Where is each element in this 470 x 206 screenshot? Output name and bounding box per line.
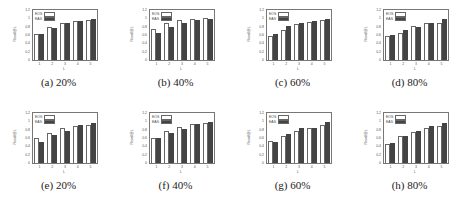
bar-eas: [429, 126, 434, 163]
x-tick-label: 2: [283, 165, 289, 169]
x-tick-label: 2: [49, 62, 55, 66]
y-tick-label: 1.2: [17, 111, 30, 115]
x-tick-label: 4: [75, 165, 81, 169]
y-tick-label: 0.8: [251, 25, 264, 29]
y-tick-label: 0: [251, 161, 264, 165]
x-tick-label: 1: [153, 62, 159, 66]
x-tick-label: 4: [75, 62, 81, 66]
legend-entry: EAS: [386, 17, 406, 22]
bar-eas: [169, 133, 174, 163]
x-tick-label: 5: [322, 62, 328, 66]
legend: EOSEAS: [152, 115, 172, 124]
x-tick-label: 2: [400, 62, 406, 66]
y-tick-label: 0.6: [251, 33, 264, 37]
x-tick-label: 5: [205, 165, 211, 169]
legend-label: EOS: [269, 12, 276, 16]
legend: EOSEAS: [386, 12, 406, 21]
y-tick-label: 0.2: [251, 153, 264, 157]
panel-caption: (h) 80%: [351, 179, 468, 191]
y-axis-label: Recall@L: [247, 129, 251, 144]
x-tick-label: 5: [88, 165, 94, 169]
y-tick-label: 0.2: [134, 50, 147, 54]
panel-caption: (b) 40%: [117, 76, 234, 88]
legend-entry: EAS: [152, 120, 172, 125]
y-tick-label: 0.8: [17, 25, 30, 29]
legend-label: EOS: [269, 115, 276, 119]
y-tick-label: 1: [134, 16, 147, 20]
y-tick-label: 0.6: [368, 136, 381, 140]
x-axis-label: L: [414, 67, 416, 71]
y-tick-label: 0: [134, 161, 147, 165]
y-tick-label: 1.2: [368, 8, 381, 12]
y-tick-label: 0.4: [134, 41, 147, 45]
bar-eas: [416, 131, 421, 164]
x-axis-label: L: [63, 170, 65, 174]
bar-eas: [39, 34, 44, 60]
legend-entry: EAS: [152, 17, 172, 22]
legend: EOSEAS: [35, 115, 55, 124]
x-tick-label: 3: [413, 165, 419, 169]
y-axis-label: Recall@L: [13, 26, 17, 41]
x-tick-label: 3: [413, 62, 419, 66]
y-tick-label: 0.4: [17, 41, 30, 45]
x-tick-label: 4: [192, 165, 198, 169]
y-axis-label: Recall@L: [364, 26, 368, 41]
bar-eas: [442, 123, 447, 163]
x-tick-label: 5: [439, 62, 445, 66]
legend-entry: EAS: [35, 17, 55, 22]
bar-eas: [390, 35, 395, 60]
bar-eas: [299, 128, 304, 163]
y-tick-label: 1.2: [251, 8, 264, 12]
bar-eas: [39, 142, 44, 163]
y-tick-label: 0.6: [251, 136, 264, 140]
x-tick-label: 3: [296, 62, 302, 66]
x-tick-label: 5: [322, 165, 328, 169]
y-tick-label: 0.4: [251, 41, 264, 45]
y-tick-label: 1: [251, 16, 264, 20]
panel-caption: (d) 80%: [351, 76, 468, 88]
legend-label: EOS: [386, 12, 393, 16]
bar-eas: [169, 27, 174, 60]
x-tick-label: 3: [62, 62, 68, 66]
panel-caption: (f) 40%: [117, 179, 234, 191]
bar-eas: [312, 128, 317, 163]
legend-swatch-icon: [395, 120, 406, 125]
legend-label: EOS: [35, 12, 42, 16]
y-tick-label: 0.4: [251, 144, 264, 148]
y-tick-label: 0: [368, 58, 381, 62]
y-tick-label: 0.8: [134, 25, 147, 29]
y-tick-label: 0.8: [368, 25, 381, 29]
bar-eas: [195, 124, 200, 163]
x-tick-label: 2: [400, 165, 406, 169]
y-axis-label: Recall@L: [247, 26, 251, 41]
legend-swatch-icon: [161, 17, 172, 22]
y-tick-label: 0.8: [251, 128, 264, 132]
bar-eas: [286, 134, 291, 163]
y-axis-label: Recall@L: [13, 129, 17, 144]
chart-panel: 00.20.40.60.811.2Recall@L12345LEOSEAS(a)…: [0, 0, 117, 103]
bar-eas: [65, 131, 70, 164]
x-tick-label: 1: [387, 165, 393, 169]
legend: EOSEAS: [152, 12, 172, 21]
bar-eas: [403, 136, 408, 164]
bar-eas: [416, 27, 421, 60]
bar-eas: [182, 129, 187, 163]
legend-swatch-icon: [44, 120, 55, 125]
y-tick-label: 0.2: [17, 50, 30, 54]
x-tick-label: 5: [205, 62, 211, 66]
y-tick-label: 0.2: [17, 153, 30, 157]
x-axis-label: L: [63, 67, 65, 71]
y-axis-label: Recall@L: [130, 129, 134, 144]
panel-caption: (c) 60%: [234, 76, 351, 88]
legend-entry: EAS: [386, 120, 406, 125]
legend: EOSEAS: [35, 12, 55, 21]
legend-label: EOS: [386, 115, 393, 119]
legend-entry: EAS: [269, 17, 289, 22]
legend-entry: EAS: [269, 120, 289, 125]
x-tick-label: 3: [62, 165, 68, 169]
chart-panel: 00.20.40.60.811.2Recall@L12345LEOSEAS(g)…: [234, 103, 351, 206]
bar-eas: [429, 23, 434, 61]
plot-area: 00.20.40.60.811.2Recall@L12345LEOSEAS: [266, 9, 332, 61]
y-tick-label: 0.2: [368, 50, 381, 54]
x-tick-label: 1: [36, 62, 42, 66]
